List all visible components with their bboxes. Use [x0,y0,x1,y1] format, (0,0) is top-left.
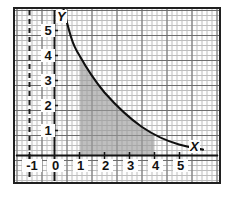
plot-frame: -1 0 1 2 3 4 5 1 2 3 4 5 Y X [13,7,221,184]
graph-figure: -1 0 1 2 3 4 5 1 2 3 4 5 Y X [0,0,235,207]
curve-y-equals-4-over-x [15,9,219,182]
